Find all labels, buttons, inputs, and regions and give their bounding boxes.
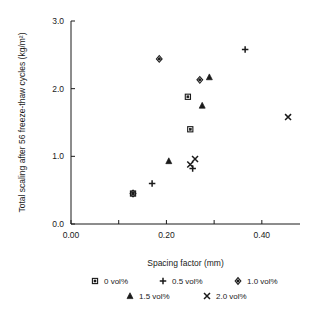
x-tick-label-4: 0.40: [254, 230, 271, 240]
legend-item-0-5-vol-[interactable]: 0.5 vol%: [160, 277, 203, 286]
x-tick-label-0: 0.00: [63, 230, 80, 240]
data-point-4-1-cross-icon: [192, 156, 198, 162]
x-tick-labels: 0.000.200.40: [63, 230, 271, 240]
data-point-1-2-plus-icon: [242, 46, 249, 53]
legend-label: 0 vol%: [104, 277, 128, 286]
y-tick-labels: 0.01.02.03.0: [52, 16, 64, 229]
axes: [71, 21, 300, 224]
tick-marks: [71, 21, 262, 224]
chart-legend: 0 vol%0.5 vol%1.0 vol%1.5 vol%2.0 vol%: [92, 277, 277, 301]
y-tick-label-1: 1.0: [52, 151, 64, 161]
legend-label: 1.5 vol%: [139, 292, 170, 301]
legend-label: 1.0 vol%: [247, 277, 278, 286]
legend-marker-diamond-icon: [235, 278, 241, 285]
data-point-3-2-triangle-icon: [206, 74, 212, 80]
series-0-vol-: [130, 94, 192, 196]
series-0-5-vol-: [149, 46, 249, 186]
legend-item-2-0-vol-[interactable]: 2.0 vol%: [204, 292, 247, 301]
series-2-0-vol-: [187, 114, 291, 167]
data-points: [130, 46, 291, 197]
data-point-3-0-triangle-icon: [166, 158, 172, 164]
y-tick-label-3: 3.0: [52, 16, 64, 26]
legend-item-1-0-vol-[interactable]: 1.0 vol%: [235, 277, 278, 286]
legend-label: 2.0 vol%: [216, 292, 247, 301]
data-point-0-1-square-icon: [185, 94, 190, 99]
legend-marker-cross-icon: [204, 293, 210, 299]
data-point-1-0-plus-icon: [149, 180, 156, 187]
x-axis-title: Spacing factor (mm): [147, 258, 224, 268]
legend-label: 0.5 vol%: [172, 277, 203, 286]
data-point-0-2-square-icon: [188, 127, 193, 132]
legend-item-1-5-vol-[interactable]: 1.5 vol%: [127, 292, 170, 301]
data-point-2-2-diamond-icon: [197, 76, 203, 83]
axis-titles: Spacing factor (mm)Total scaling after 5…: [17, 32, 224, 268]
y-axis-title: Total scaling after 56 freeze-thaw cycle…: [17, 32, 27, 212]
y-tick-label-0: 0.0: [52, 219, 64, 229]
legend-marker-square-icon: [92, 278, 97, 283]
series-1-5-vol-: [166, 74, 213, 164]
legend-marker-plus-icon: [160, 278, 167, 285]
data-point-2-1-diamond-icon: [156, 56, 162, 63]
x-tick-label-2: 0.20: [158, 230, 175, 240]
data-point-3-1-triangle-icon: [199, 102, 205, 108]
data-point-4-0-cross-icon: [187, 161, 193, 167]
y-tick-label-2: 2.0: [52, 84, 64, 94]
legend-item-0-vol-[interactable]: 0 vol%: [92, 277, 128, 286]
data-point-4-2-cross-icon: [285, 114, 291, 120]
legend-marker-triangle-icon: [127, 293, 133, 299]
scatter-chart: 0.000.200.40 0.01.02.03.0 Spacing factor…: [0, 0, 326, 309]
chart-canvas: 0.000.200.40 0.01.02.03.0 Spacing factor…: [0, 0, 326, 309]
